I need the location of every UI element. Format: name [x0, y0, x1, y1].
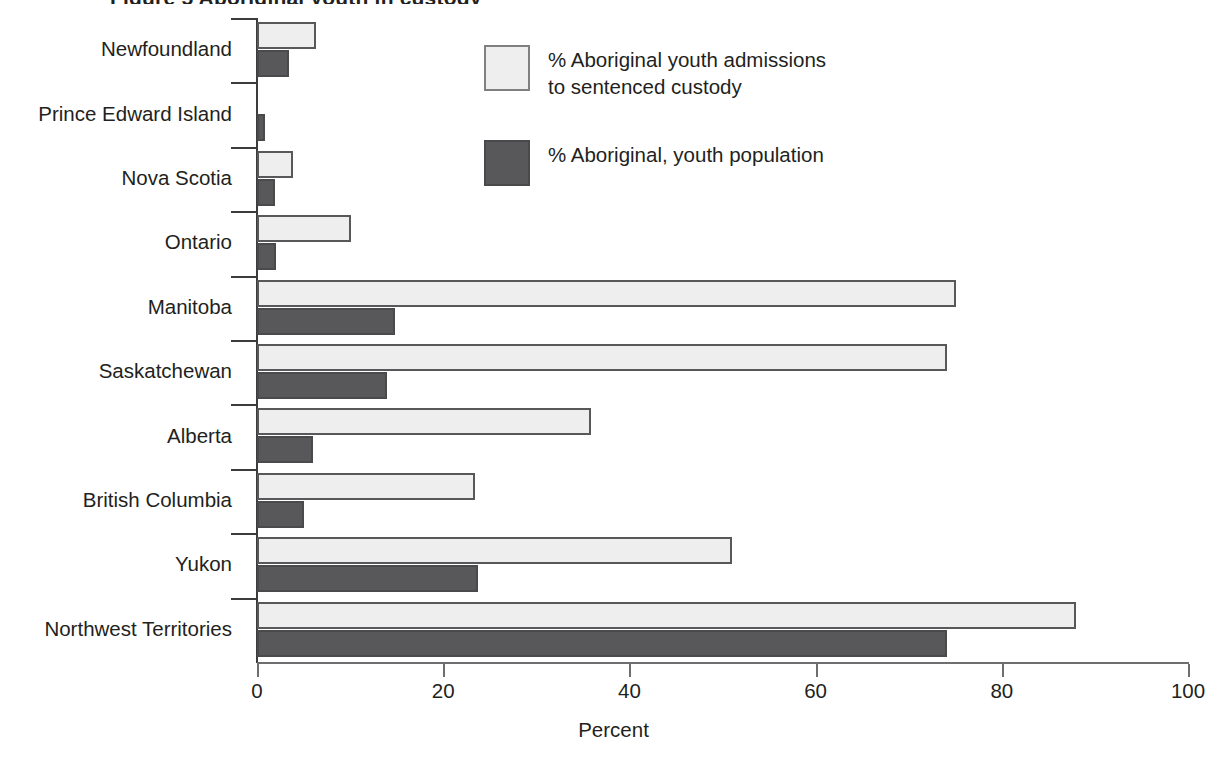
- category-tick: [231, 404, 257, 406]
- category-tick: [231, 598, 257, 600]
- category-label: Ontario: [0, 232, 232, 253]
- legend-swatch: [484, 45, 530, 91]
- bar-chart: Figure 5 Aboriginal youth in custody New…: [0, 0, 1227, 763]
- legend-label: % Aboriginal youth admissions to sentenc…: [548, 45, 826, 100]
- bar-admissions: [257, 215, 351, 242]
- value-axis-tick: [443, 664, 445, 677]
- value-axis-line: [257, 662, 1189, 664]
- value-axis-tick: [257, 664, 259, 677]
- legend-swatch: [484, 140, 530, 186]
- category-tick: [231, 276, 257, 278]
- category-tick: [231, 340, 257, 342]
- bar-group: [257, 602, 1188, 657]
- category-axis-labels: NewfoundlandPrince Edward IslandNova Sco…: [0, 0, 240, 700]
- bar-admissions: [257, 473, 475, 500]
- category-label: Yukon: [0, 554, 232, 575]
- category-label: Manitoba: [0, 297, 232, 318]
- category-tick: [231, 82, 257, 84]
- bar-admissions: [257, 280, 956, 307]
- bar-admissions: [257, 602, 1076, 629]
- legend-item: % Aboriginal youth admissions to sentenc…: [484, 45, 826, 100]
- bar-admissions: [257, 151, 293, 178]
- bar-group: [257, 215, 1188, 270]
- value-axis-tick-label: 60: [776, 680, 856, 703]
- bar-population: [257, 243, 276, 270]
- category-label: Prince Edward Island: [0, 104, 232, 125]
- bar-admissions: [257, 537, 732, 564]
- category-label: Alberta: [0, 426, 232, 447]
- category-tick: [231, 211, 257, 213]
- category-label: Newfoundland: [0, 39, 232, 60]
- bar-population: [257, 179, 275, 206]
- bar-group: [257, 537, 1188, 592]
- value-axis-tick-label: 20: [403, 680, 483, 703]
- value-axis-tick: [816, 664, 818, 677]
- bar-population: [257, 565, 478, 592]
- value-axis-tick-label: 0: [217, 680, 297, 703]
- category-label: British Columbia: [0, 490, 232, 511]
- bar-admissions: [257, 344, 947, 371]
- value-axis-tick: [1002, 664, 1004, 677]
- bar-population: [257, 501, 304, 528]
- value-axis-tick-label: 40: [589, 680, 669, 703]
- category-label: Nova Scotia: [0, 168, 232, 189]
- category-tick: [231, 147, 257, 149]
- bar-group: [257, 280, 1188, 335]
- legend-label: % Aboriginal, youth population: [548, 140, 824, 168]
- category-tick: [231, 18, 257, 20]
- bar-group: [257, 408, 1188, 463]
- bar-admissions: [257, 408, 591, 435]
- category-tick: [231, 469, 257, 471]
- category-label: Northwest Territories: [0, 619, 232, 640]
- value-axis-title: Percent: [0, 718, 1227, 742]
- bar-population: [257, 308, 395, 335]
- bar-population: [257, 436, 313, 463]
- value-axis-tick-label: 80: [962, 680, 1042, 703]
- bar-admissions: [257, 22, 316, 49]
- value-axis-tick-label: 100: [1148, 680, 1227, 703]
- legend-item: % Aboriginal, youth population: [484, 140, 824, 186]
- bar-population: [257, 50, 289, 77]
- bar-population: [257, 114, 265, 141]
- bar-group: [257, 473, 1188, 528]
- bar-group: [257, 344, 1188, 399]
- category-label: Saskatchewan: [0, 361, 232, 382]
- value-axis-tick: [1188, 664, 1190, 677]
- value-axis-tick: [629, 664, 631, 677]
- bar-population: [257, 630, 947, 657]
- category-tick: [231, 533, 257, 535]
- plot-area: [257, 18, 1188, 662]
- bar-population: [257, 372, 387, 399]
